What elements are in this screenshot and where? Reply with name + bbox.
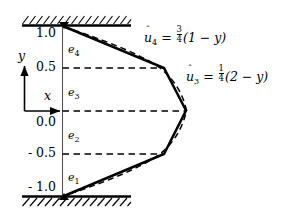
x-axis-label: x [44, 90, 51, 103]
equation-u4: ˆu4 = 34(1 − y) [144, 25, 226, 47]
u4-numerator: 3 [177, 25, 182, 34]
element-label-e4-sub: 4 [75, 49, 80, 58]
figure-canvas: 1.0 0.5 0.0 - 0.5 - 1.0 y x e4 e3 e2 e1 … [0, 0, 284, 221]
y-axis-label: y [18, 50, 25, 63]
u3-hat-accent: ˆ [188, 65, 193, 74]
u4-fraction: 34 [177, 25, 182, 44]
u4-hat-accent: ˆ [146, 26, 151, 35]
u4-equals: = [161, 30, 171, 45]
element-label-e2-sub: 2 [75, 135, 80, 144]
element-label-e2: e2 [68, 130, 80, 144]
u3-variable: ˆu [186, 71, 194, 84]
y-tick-label--0.5: - 0.5 [0, 147, 56, 160]
support-bottom [22, 197, 131, 207]
element-label-e3: e3 [68, 87, 80, 101]
gridlines [63, 68, 187, 154]
u3-denominator: 4 [219, 73, 224, 83]
element-label-e1: e1 [68, 172, 80, 186]
element-label-e1-sub: 1 [75, 177, 80, 186]
element-label-e3-sub: 3 [75, 92, 80, 101]
u4-denominator: 4 [177, 34, 182, 44]
u3-fraction: 14 [219, 64, 224, 83]
u3-subscript: 3 [194, 77, 199, 86]
u3-numerator: 1 [219, 64, 224, 73]
element-label-e4: e4 [68, 44, 80, 58]
u4-rhs: (1 − y) [183, 30, 226, 45]
y-tick-label-0.5: 0.5 [6, 61, 56, 74]
y-tick-label--1.0: - 1.0 [0, 181, 56, 194]
u3-equals: = [203, 69, 213, 84]
u3-rhs: (2 − y) [225, 69, 268, 84]
u4-subscript: 4 [152, 38, 157, 47]
u4-variable: ˆu [144, 32, 152, 45]
y-tick-label-0.0: 0.0 [6, 116, 56, 129]
y-tick-label-1.0: 1.0 [6, 27, 56, 40]
equation-u3: ˆu3 = 14(2 − y) [186, 64, 268, 86]
